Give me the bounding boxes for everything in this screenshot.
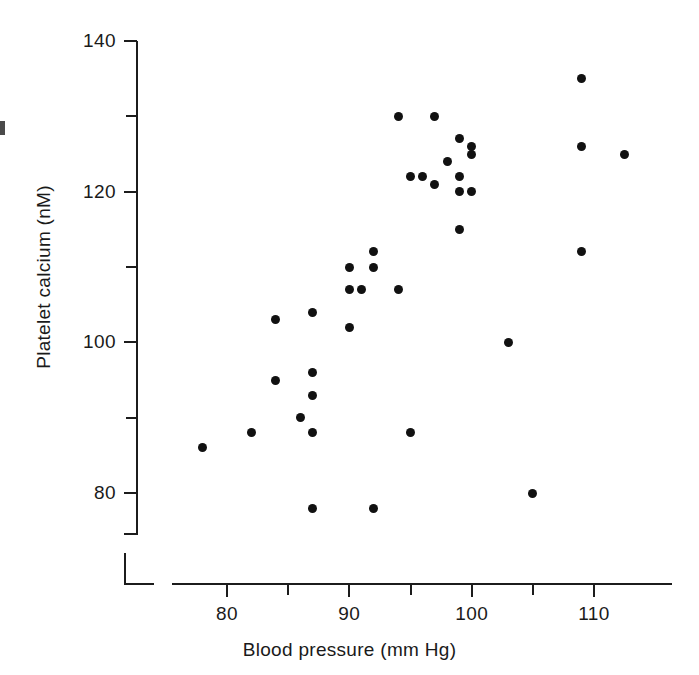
data-point [357,285,366,294]
data-point [430,180,439,189]
x-tick-label-110: 110 [559,603,629,627]
data-point [455,187,464,196]
data-point [345,285,354,294]
y-axis-break-stub [124,553,126,585]
x-tick-80 [226,584,228,597]
x-tick-label-90: 90 [314,603,384,627]
x-tick-minor-85 [287,584,289,595]
y-axis-break-foot [124,583,154,585]
y-tick-label-text: 120 [83,181,116,203]
y-tick-label-100: 100 [54,331,116,351]
data-point [406,172,415,181]
y-tick-minor-90 [126,417,137,419]
data-point [308,428,317,437]
data-point [577,74,586,83]
data-point [308,504,317,513]
y-tick-100 [124,341,137,343]
data-point [406,428,415,437]
data-point [369,247,378,256]
data-point [308,308,317,317]
data-point [577,247,586,256]
data-point [345,263,354,272]
y-tick-label-text: 80 [94,482,116,504]
x-tick-label-text: 90 [314,603,384,625]
x-tick-label-100: 100 [437,603,507,627]
data-point [394,112,403,121]
data-point [467,187,476,196]
data-point [455,225,464,234]
x-tick-minor-105 [532,584,534,595]
y-tick-label-text: 140 [83,30,116,52]
y-tick-minor-130 [126,115,137,117]
scatter-plot-figure: 80100120140 8090100110 Blood pressure (m… [0,0,699,675]
data-point [467,150,476,159]
y-tick-minor-110 [126,266,137,268]
data-point [198,443,207,452]
x-tick-label-text: 80 [192,603,262,625]
y-tick-140 [124,40,137,42]
data-point [455,172,464,181]
data-point [620,150,629,159]
data-point [271,315,280,324]
data-point [271,376,280,385]
data-point [504,338,513,347]
y-tick-label-80: 80 [54,482,116,502]
data-point [308,391,317,400]
x-tick-100 [471,584,473,597]
y-tick-label-140: 140 [54,30,116,50]
x-tick-label-text: 110 [559,603,629,625]
data-point [577,142,586,151]
x-tick-label-text: 100 [437,603,507,625]
data-point [443,157,452,166]
y-tick-label-120: 120 [54,181,116,201]
data-point [394,285,403,294]
data-point [369,504,378,513]
data-point [418,172,427,181]
y-axis-foot-tick [124,533,138,535]
x-tick-label-80: 80 [192,603,262,627]
y-axis-title: Platelet calcium (nM) [33,127,55,427]
data-point [247,428,256,437]
x-tick-110 [593,584,595,597]
y-tick-120 [124,191,137,193]
data-point [296,413,305,422]
data-point [369,263,378,272]
data-point [308,368,317,377]
y-tick-label-text: 100 [83,331,116,353]
data-point [430,112,439,121]
y-tick-80 [124,492,137,494]
x-axis-line [172,583,672,585]
data-point [467,142,476,151]
data-point [528,489,537,498]
data-point [345,323,354,332]
x-axis-title: Blood pressure (mm Hg) [0,639,699,661]
x-tick-90 [348,584,350,597]
data-point [455,134,464,143]
page-edge-artifact [0,121,5,135]
x-tick-minor-95 [410,584,412,595]
